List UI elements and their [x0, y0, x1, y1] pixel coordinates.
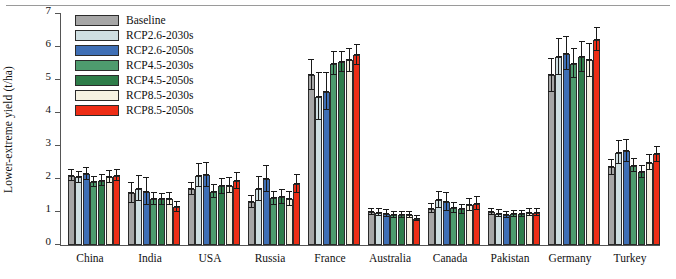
legend-label: RCP8.5-2050s — [126, 105, 193, 117]
bar[interactable] — [428, 209, 435, 245]
bar[interactable] — [75, 177, 82, 245]
bar[interactable] — [608, 167, 615, 245]
bar[interactable] — [458, 209, 465, 245]
bar[interactable] — [338, 62, 345, 245]
error-bar-cap — [263, 165, 269, 166]
bar[interactable] — [150, 199, 157, 245]
bar[interactable] — [638, 172, 645, 245]
legend-item[interactable]: RCP4.5-2030s — [75, 58, 193, 73]
legend-label: RCP2.6-2030s — [126, 30, 193, 42]
bar[interactable] — [390, 215, 397, 245]
error-bar-cap — [488, 214, 494, 215]
bar[interactable] — [353, 55, 360, 245]
legend-item[interactable]: RCP4.5-2050s — [75, 73, 193, 88]
bar[interactable] — [578, 57, 585, 245]
bar[interactable] — [398, 215, 405, 245]
error-bar — [656, 147, 657, 162]
bar[interactable] — [615, 153, 622, 245]
bar[interactable] — [570, 64, 577, 246]
error-bar-mean-cap — [459, 208, 465, 209]
legend-item[interactable]: Baseline — [75, 13, 193, 28]
bar[interactable] — [83, 174, 90, 245]
error-bar-mean-cap — [339, 61, 345, 62]
bar[interactable] — [90, 182, 97, 245]
bar[interactable] — [293, 184, 300, 245]
bar[interactable] — [406, 215, 413, 245]
bar[interactable] — [323, 92, 330, 245]
bar[interactable] — [593, 40, 600, 245]
bar[interactable] — [383, 214, 390, 245]
bar[interactable] — [330, 64, 337, 246]
error-bar-cap — [166, 192, 172, 193]
error-bar-mean-cap — [391, 214, 397, 215]
bar[interactable] — [488, 212, 495, 245]
x-tick-label: Turkey — [600, 252, 660, 264]
bar[interactable] — [113, 176, 120, 245]
bar[interactable] — [158, 199, 165, 245]
bar[interactable] — [98, 181, 105, 245]
bar[interactable] — [210, 192, 217, 245]
bar[interactable] — [518, 214, 525, 245]
legend-item[interactable]: RCP2.6-2030s — [75, 28, 193, 43]
error-bar-cap — [234, 188, 240, 189]
error-bar-cap — [428, 203, 434, 204]
legend-item[interactable]: RCP8.5-2030s — [75, 88, 193, 103]
legend-item[interactable]: RCP8.5-2050s — [75, 103, 193, 118]
y-tick-label: 1 — [46, 203, 52, 214]
error-bar — [649, 155, 650, 171]
legend-label: RCP2.6-2050s — [126, 45, 193, 57]
bar[interactable] — [68, 176, 75, 245]
bar[interactable] — [623, 151, 630, 245]
bar[interactable] — [106, 177, 113, 245]
legend-label: RCP4.5-2030s — [126, 60, 193, 72]
bar[interactable] — [173, 207, 180, 245]
bar[interactable] — [450, 208, 457, 245]
bar[interactable] — [368, 212, 375, 245]
error-bar — [296, 175, 297, 192]
error-bar-cap — [616, 140, 622, 141]
bar[interactable] — [586, 60, 593, 245]
bar[interactable] — [466, 205, 473, 245]
bar[interactable] — [495, 214, 502, 245]
error-bar-mean-cap — [556, 56, 562, 57]
error-bar-cap — [399, 217, 405, 218]
bar[interactable] — [248, 202, 255, 245]
x-tick-label: France — [300, 252, 360, 264]
bar[interactable] — [526, 213, 533, 245]
error-bar-cap — [474, 196, 480, 197]
bar[interactable] — [653, 154, 660, 245]
bar[interactable] — [555, 57, 562, 245]
legend-swatch — [75, 75, 119, 86]
error-bar — [611, 160, 612, 175]
error-bar-mean-cap — [68, 175, 74, 176]
bar[interactable] — [346, 60, 353, 245]
error-bar-cap — [151, 204, 157, 205]
bar[interactable] — [233, 181, 240, 245]
bar[interactable] — [548, 75, 555, 245]
bar[interactable] — [188, 189, 195, 245]
error-bar-cap — [556, 38, 562, 39]
bar[interactable] — [510, 214, 517, 245]
bar[interactable] — [166, 199, 173, 245]
bar[interactable] — [375, 213, 382, 245]
error-bar-cap — [256, 200, 262, 201]
bar[interactable] — [503, 215, 510, 245]
bar[interactable] — [630, 166, 637, 245]
bar[interactable] — [413, 219, 420, 245]
error-bar-mean-cap — [83, 173, 89, 174]
error-bar-mean-cap — [519, 213, 525, 214]
bar[interactable] — [226, 186, 233, 245]
bar[interactable] — [270, 198, 277, 245]
bar[interactable] — [533, 213, 540, 245]
error-bar — [566, 37, 567, 70]
bar[interactable] — [646, 163, 653, 246]
error-bar-mean-cap — [608, 166, 614, 167]
error-bar-cap — [354, 64, 360, 65]
error-bar — [236, 173, 237, 189]
error-bar-cap — [623, 139, 629, 140]
bar[interactable] — [308, 75, 315, 245]
error-bar-cap — [196, 163, 202, 164]
bar[interactable] — [218, 186, 225, 245]
bar[interactable] — [563, 54, 570, 245]
legend-item[interactable]: RCP2.6-2050s — [75, 43, 193, 58]
